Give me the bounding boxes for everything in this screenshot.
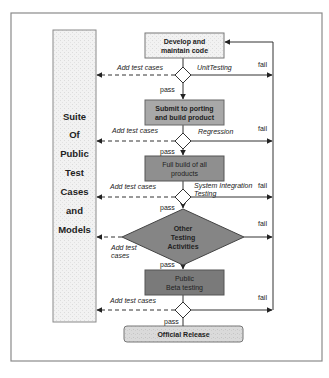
pass-label-4: pass	[160, 261, 175, 269]
other-line-2: Testing	[171, 234, 195, 242]
pass-label-3: pass	[160, 204, 175, 212]
suite-line-1: Suite	[63, 111, 86, 122]
submit-line-1: Submit to porting	[155, 105, 213, 113]
suite-line-4: Test	[65, 167, 85, 178]
node-full-build: Full build of all products	[145, 156, 224, 181]
develop-line-2: maintain code	[161, 47, 208, 54]
other-line-1: Other	[174, 225, 193, 232]
suite-line-6: and	[66, 205, 83, 216]
regression-label: Regression	[198, 128, 234, 136]
develop-line-1: Develop and	[164, 38, 206, 46]
pass-label-5: pass	[164, 318, 179, 326]
suite-line-5: Cases	[61, 186, 89, 197]
submit-line-2: and build product	[155, 114, 215, 122]
node-public-beta: Public Beta testing	[145, 270, 224, 295]
add-test-label-line-1: Add test	[110, 244, 138, 251]
suite-box: Suite Of Public Test Cases and Models	[53, 30, 96, 322]
add-test-cases-label-5: Add test cases	[109, 297, 156, 304]
node-official-release: Official Release	[124, 326, 243, 342]
fail-label-4: fail	[258, 220, 267, 227]
system-integration-label-1: System Integration	[194, 182, 252, 190]
full-build-line-1: Full build of all	[162, 161, 207, 168]
pass-label-1: pass	[160, 86, 175, 94]
node-develop: Develop and maintain code	[145, 33, 224, 58]
fail-label-1: fail	[258, 61, 267, 68]
add-test-cases-label-3: Add test cases	[109, 183, 156, 190]
system-integration-label-2: Testing	[194, 190, 216, 198]
full-build-line-2: products	[171, 170, 198, 178]
public-beta-line-1: Public	[175, 275, 195, 282]
public-beta-line-2: Beta testing	[166, 284, 203, 292]
suite-line-7: Models	[58, 224, 91, 235]
node-submit: Submit to porting and build product	[145, 100, 224, 125]
flowchart-diagram: Suite Of Public Test Cases and Models	[0, 0, 329, 378]
add-test-cases-label-1: Add test cases	[116, 64, 163, 71]
suite-line-2: Of	[69, 129, 80, 140]
fail-label-5: fail	[258, 294, 267, 301]
fail-label-2: fail	[258, 125, 267, 132]
other-line-3: Activities	[167, 243, 198, 250]
fail-label-3: fail	[258, 182, 267, 189]
add-test-label-line-2: cases	[111, 252, 130, 259]
suite-line-3: Public	[60, 148, 89, 159]
add-test-cases-label-2: Add test cases	[111, 127, 158, 134]
official-release-label: Official Release	[157, 331, 209, 338]
pass-label-2: pass	[160, 148, 175, 156]
unit-testing-label: UnitTesting	[197, 64, 232, 72]
